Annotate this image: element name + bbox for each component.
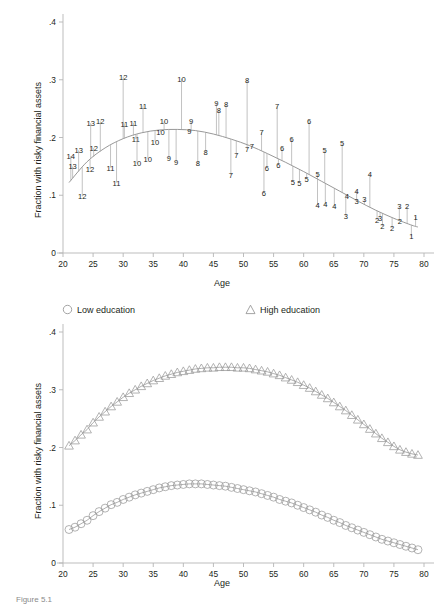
- data-point-label: 11: [139, 102, 147, 111]
- x-tick-label: 35: [149, 259, 159, 269]
- data-point-label: 2: [390, 224, 394, 233]
- data-point-label: 6: [265, 164, 269, 173]
- top-y-axis-label-wrap: Fraction with risky financial assets: [18, 0, 32, 300]
- bottom-chart-panel: Low education High education Fraction wi…: [0, 300, 444, 602]
- data-point-label: 5: [291, 178, 295, 187]
- x-tick-label: 65: [329, 259, 339, 269]
- data-point-label: 11: [113, 179, 121, 188]
- data-point-label: 12: [78, 192, 86, 201]
- x-tick-label: 70: [359, 259, 369, 269]
- data-point-label: 4: [323, 200, 327, 209]
- y-tick-label: .4: [49, 327, 56, 337]
- x-tick-label: 55: [269, 569, 279, 579]
- data-point-label: 4: [354, 187, 358, 196]
- data-point-label: 3: [397, 202, 401, 211]
- data-point-label: 8: [217, 106, 221, 115]
- data-point-label: 4: [315, 201, 319, 210]
- data-point-label: 1: [413, 213, 417, 222]
- x-tick-label: 45: [209, 569, 219, 579]
- data-point-label: 7: [234, 151, 238, 160]
- top-y-axis-label: Fraction with risky financial assets: [33, 50, 43, 250]
- triangle-marker: [281, 373, 290, 381]
- legend: Low education High education: [0, 300, 444, 322]
- data-point-label: 9: [167, 154, 171, 163]
- y-tick-label: .1: [49, 500, 56, 510]
- bottom-x-axis-label: Age: [0, 578, 444, 588]
- x-tick-label: 30: [119, 259, 129, 269]
- data-point-label: 5: [315, 170, 319, 179]
- top-chart-svg: 0.1.2.3.42025303540455055606570758014131…: [0, 0, 444, 300]
- data-point-label: 12: [89, 144, 97, 153]
- data-point-label: 12: [96, 117, 104, 126]
- triangle-marker: [155, 374, 164, 382]
- x-tick-label: 40: [179, 569, 189, 579]
- data-point-label: 2: [398, 217, 402, 226]
- data-point-label: 9: [174, 158, 178, 167]
- x-tick-label: 35: [149, 569, 159, 579]
- data-point-group: 1413131312121212121111111111111010101010…: [67, 73, 418, 241]
- triangle-marker: [65, 441, 74, 449]
- data-point-label: 10: [156, 128, 164, 137]
- data-point-label: 2: [380, 222, 384, 231]
- x-tick-label: 80: [419, 569, 429, 579]
- top-chart-panel: Fraction with risky financial assets 0.1…: [0, 0, 444, 300]
- x-tick-label: 65: [329, 569, 339, 579]
- triangle-marker-icon: [245, 304, 256, 315]
- data-point-label: 4: [368, 170, 372, 179]
- data-point-label: 7: [250, 142, 254, 151]
- data-point-label: 2: [375, 216, 379, 225]
- x-tick-label: 30: [119, 569, 129, 579]
- data-point-label: 6: [290, 135, 294, 144]
- x-tick-label: 75: [389, 259, 399, 269]
- data-point-label: 13: [74, 146, 82, 155]
- data-point-label: 3: [344, 212, 348, 221]
- data-point-label: 6: [307, 117, 311, 126]
- data-point-label: 3: [362, 195, 366, 204]
- x-tick-label: 60: [299, 259, 309, 269]
- data-point-label: 7: [245, 145, 249, 154]
- data-point-label: 5: [297, 179, 301, 188]
- y-tick-label: .4: [49, 17, 56, 27]
- legend-item-high-education[interactable]: High education: [245, 304, 320, 315]
- data-point-label: 12: [119, 73, 127, 82]
- y-tick-label: .1: [49, 190, 56, 200]
- figure-caption: Figure 5.1: [16, 595, 52, 604]
- data-point-label: 13: [86, 119, 94, 128]
- data-point-label: 4: [332, 202, 336, 211]
- data-point-label: 7: [229, 171, 233, 180]
- y-tick-label: .3: [49, 75, 56, 85]
- y-tick-label: .2: [49, 133, 56, 143]
- triangle-marker: [293, 378, 302, 386]
- data-point-label: 5: [340, 139, 344, 148]
- data-point-label: 11: [132, 135, 140, 144]
- data-point-label: 7: [275, 102, 279, 111]
- x-tick-label: 75: [389, 569, 399, 579]
- data-point-label: 11: [120, 120, 128, 129]
- triangle-marker: [95, 413, 104, 421]
- data-point-label: 3: [354, 197, 358, 206]
- x-tick-label: 55: [269, 259, 279, 269]
- data-point-label: 2: [405, 202, 409, 211]
- triangle-marker: [77, 430, 86, 438]
- data-point-label: 8: [203, 148, 207, 157]
- data-point-label: 6: [280, 144, 284, 153]
- x-tick-label: 25: [88, 569, 98, 579]
- x-tick-label: 50: [239, 569, 249, 579]
- legend-item-low-education[interactable]: Low education: [62, 304, 135, 315]
- data-point-label: 10: [177, 75, 185, 84]
- circle-marker-icon: [62, 304, 73, 315]
- triangle-marker: [299, 381, 308, 389]
- y-tick-label: 0: [51, 558, 56, 568]
- legend-label-high-education: High education: [260, 305, 320, 315]
- y-tick-label: 0: [51, 248, 56, 258]
- data-point-label: 7: [259, 128, 263, 137]
- triangle-marker: [143, 379, 152, 387]
- data-point-label: 8: [224, 100, 228, 109]
- bottom-chart-svg: 0.1.2.3.420253035404550556065707580: [0, 320, 444, 602]
- data-point-label: 10: [160, 117, 168, 126]
- triangle-marker: [221, 363, 230, 371]
- triangle-marker: [101, 407, 110, 415]
- series-markers-low-education: [65, 480, 422, 554]
- x-tick-label: 40: [179, 259, 189, 269]
- data-point-label: 6: [276, 161, 280, 170]
